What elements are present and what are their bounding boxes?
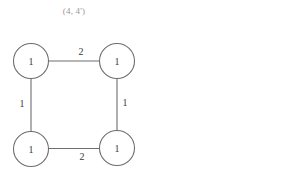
edge-weight-top: 2 [79,46,84,57]
node-label: 1 [29,56,34,67]
node-bottom-left: 1 [14,132,49,167]
graph-diagram: 2 1 1 2 1 1 1 1 [0,0,293,177]
node-label: 1 [29,144,34,155]
node-label: 1 [115,56,120,67]
edge-weight-left: 1 [20,98,25,109]
node-top-left: 1 [14,44,49,79]
node-bottom-right: 1 [100,131,135,166]
edge-weight-right: 1 [123,97,128,108]
node-label: 1 [115,143,120,154]
node-top-right: 1 [100,44,135,79]
edge-weight-bottom: 2 [80,151,85,162]
